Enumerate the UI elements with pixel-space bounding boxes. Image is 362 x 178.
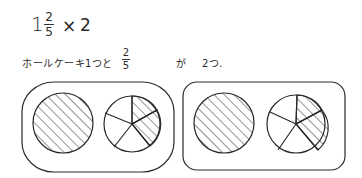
group-2-whole-cake-icon — [194, 93, 254, 153]
cake-drawing — [0, 0, 362, 178]
group-1-whole-cake-icon — [33, 93, 93, 153]
